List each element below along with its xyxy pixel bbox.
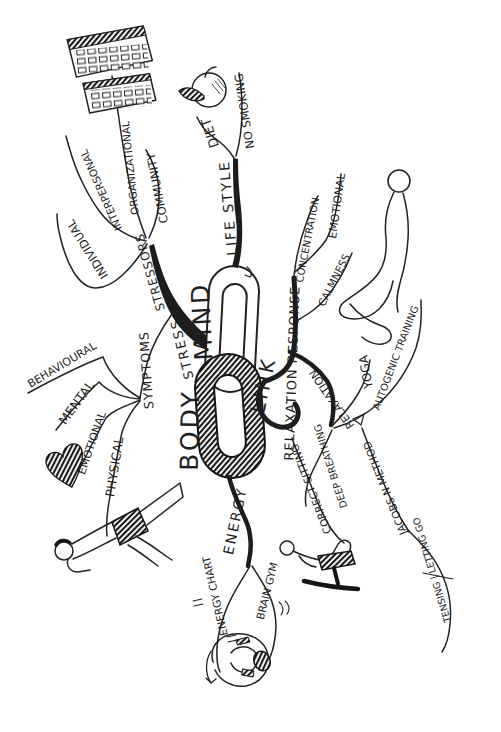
label-body: BODY	[177, 389, 203, 471]
apple-icon	[179, 67, 226, 107]
keyboards-icon	[67, 26, 157, 115]
tick-marks	[193, 599, 289, 642]
stool-sitting-figure-icon	[280, 540, 358, 589]
exercise-figure-icon	[55, 483, 183, 572]
mindmap-canvas: MIND BODY LINK STRESS STRESSORS INDIVIDU…	[0, 0, 501, 732]
rotation-arrow-icon	[206, 651, 216, 683]
label-mind: MIND	[187, 281, 216, 361]
